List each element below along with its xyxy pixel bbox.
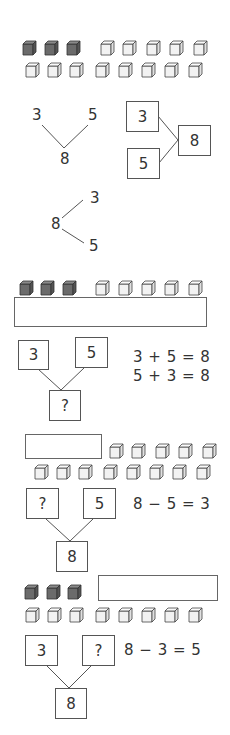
light-cube-icon xyxy=(47,62,62,78)
light-cube-icon xyxy=(122,40,137,56)
light-cube-icon xyxy=(95,62,110,78)
light-cube-icon xyxy=(100,40,115,56)
light-cube-icon xyxy=(25,62,40,78)
light-cube-icon xyxy=(56,464,71,480)
light-cube-icon xyxy=(196,464,211,480)
v-tree-left: 3 xyxy=(32,108,42,123)
light-cube-icon xyxy=(188,607,203,623)
light-cube-icon xyxy=(25,607,40,623)
dark-cube-icon xyxy=(62,280,77,296)
light-cube-icon xyxy=(69,62,84,78)
light-cube-icon xyxy=(172,464,187,480)
light-cube-icon xyxy=(131,443,146,459)
light-cube-icon xyxy=(149,464,164,480)
box-top: 3 xyxy=(126,101,159,132)
light-cube-icon xyxy=(146,40,161,56)
dark-cube-icon xyxy=(67,584,82,600)
v-tree-right: 5 xyxy=(88,108,98,123)
light-cube-icon xyxy=(188,62,203,78)
dark-cube-icon xyxy=(40,280,55,296)
branch-top: 3 xyxy=(90,191,100,206)
box-total: 8 xyxy=(56,541,88,572)
equation-2: 5 + 3 = 8 xyxy=(133,369,210,384)
box-bottom: 5 xyxy=(127,148,160,179)
light-cube-icon xyxy=(69,607,84,623)
light-cube-icon xyxy=(202,443,217,459)
box-result: 8 xyxy=(178,125,211,156)
light-cube-icon xyxy=(47,607,62,623)
box-left: 3 xyxy=(18,340,49,370)
light-cube-icon xyxy=(118,62,133,78)
branch-root: 8 xyxy=(51,217,61,232)
light-cube-icon xyxy=(188,280,203,296)
light-cube-icon xyxy=(118,607,133,623)
light-cube-icon xyxy=(118,280,133,296)
light-cube-icon xyxy=(141,607,156,623)
light-cube-icon xyxy=(164,62,179,78)
light-cube-icon xyxy=(95,607,110,623)
box-left: 3 xyxy=(25,635,58,666)
light-cube-icon xyxy=(164,280,179,296)
light-cube-icon xyxy=(155,443,170,459)
box-right: 5 xyxy=(75,337,108,368)
equation-3: 8 − 5 = 3 xyxy=(133,497,210,512)
dark-cube-icon xyxy=(66,40,81,56)
light-cube-icon xyxy=(193,40,208,56)
box-right: 5 xyxy=(83,488,116,519)
answer-rectangle xyxy=(25,434,102,459)
dark-cube-icon xyxy=(22,40,37,56)
v-tree-bottom: 8 xyxy=(60,152,70,167)
answer-rectangle xyxy=(98,575,218,601)
dark-cube-icon xyxy=(44,40,59,56)
branch-bottom: 5 xyxy=(89,239,99,254)
light-cube-icon xyxy=(178,443,193,459)
dark-cube-icon xyxy=(19,280,34,296)
box-unknown: ? xyxy=(26,488,59,519)
light-cube-icon xyxy=(141,280,156,296)
light-cube-icon xyxy=(169,40,184,56)
light-cube-icon xyxy=(109,443,124,459)
light-cube-icon xyxy=(164,607,179,623)
dark-cube-icon xyxy=(24,584,39,600)
answer-rectangle-wide xyxy=(14,297,207,327)
dark-cube-icon xyxy=(46,584,61,600)
light-cube-icon xyxy=(95,280,110,296)
light-cube-icon xyxy=(78,464,93,480)
light-cube-icon xyxy=(141,62,156,78)
light-cube-icon xyxy=(126,464,141,480)
equation-1: 3 + 5 = 8 xyxy=(133,350,210,365)
light-cube-icon xyxy=(103,464,118,480)
light-cube-icon xyxy=(34,464,49,480)
equation-4: 8 − 3 = 5 xyxy=(124,643,201,658)
box-total: 8 xyxy=(55,688,87,719)
box-unknown: ? xyxy=(82,635,115,666)
box-unknown: ? xyxy=(49,390,81,421)
